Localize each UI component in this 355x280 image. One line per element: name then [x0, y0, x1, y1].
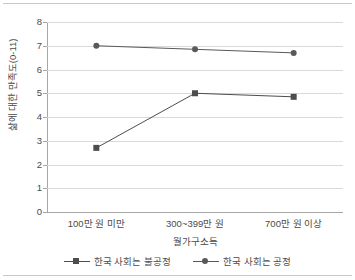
legend-item[interactable]: 한국 사회는 공정	[193, 254, 291, 268]
plot-area	[47, 22, 343, 212]
y-axis-title: 삶에 대한 만족도(0-11)	[5, 25, 19, 145]
data-point-marker	[291, 94, 297, 100]
x-tick-label: 100만 원 미만	[41, 216, 151, 230]
data-point-marker	[192, 46, 198, 52]
gridline	[47, 212, 343, 213]
legend-label: 한국 사회는 공정	[223, 254, 291, 268]
y-tick-label: 1	[20, 183, 42, 193]
chart-legend: 한국 사회는 불공정한국 사회는 공정	[0, 254, 355, 268]
page-rule-bottom	[3, 275, 352, 276]
legend-item[interactable]: 한국 사회는 불공정	[64, 254, 171, 268]
data-point-marker	[93, 43, 99, 49]
y-tick-label: 3	[20, 136, 42, 146]
legend-square-marker-icon	[73, 258, 79, 264]
y-tick-label: 2	[20, 160, 42, 170]
legend-swatch	[64, 256, 90, 266]
legend-swatch	[193, 256, 219, 266]
x-tick-label: 700만 원 이상	[239, 216, 349, 230]
y-axis-tick-labels: 012345678	[18, 22, 42, 213]
chart-screenshot: 삶에 대한 만족도(0-11) 012345678 100만 원 미만300~3…	[0, 0, 355, 280]
data-point-marker	[93, 145, 99, 151]
x-axis-tick-labels: 100만 원 미만300~399만 원700만 원 이상	[47, 216, 343, 232]
legend-label: 한국 사회는 불공정	[94, 254, 171, 268]
data-point-marker	[192, 90, 198, 96]
x-tick-label: 300~399만 원	[140, 216, 250, 230]
y-tick-label: 0	[20, 207, 42, 217]
y-tick-label: 5	[20, 88, 42, 98]
line-chart: 삶에 대한 만족도(0-11) 012345678 100만 원 미만300~3…	[0, 6, 355, 274]
x-axis-title: 월가구소득	[47, 234, 343, 248]
y-tick-label: 4	[20, 112, 42, 122]
series-layer	[47, 22, 343, 212]
series-line	[96, 93, 293, 148]
y-tick-label: 7	[20, 41, 42, 51]
y-tick-label: 8	[20, 17, 42, 27]
legend-circle-marker-icon	[202, 258, 208, 264]
data-point-marker	[291, 50, 297, 56]
y-tick-label: 6	[20, 65, 42, 75]
page-rule-top	[3, 3, 352, 4]
